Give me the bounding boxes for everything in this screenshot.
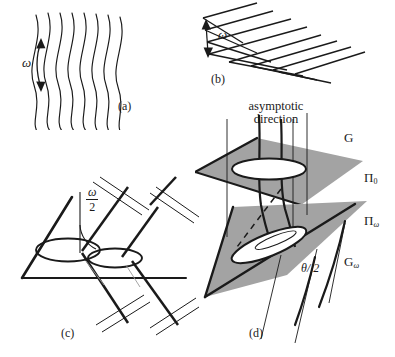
panel-b-omega-label: ω bbox=[218, 28, 227, 42]
panel-d-label: (d) bbox=[249, 327, 263, 340]
asymptotic-direction-label: asymptotic direction bbox=[232, 100, 320, 126]
label-Pi0-base: Π bbox=[364, 170, 373, 185]
figure-root: ω (a) ω (b) bbox=[0, 0, 395, 357]
label-Piw-sub: ω bbox=[373, 220, 379, 229]
panel-b-label: (b) bbox=[211, 73, 225, 86]
panel-c-plane-edge-left bbox=[22, 197, 72, 278]
panel-d-theta-half-label: θ/ 2 bbox=[301, 262, 319, 275]
panel-c-omega-denominator: 2 bbox=[86, 201, 98, 213]
panel-c-omega-over-2: ω 2 bbox=[86, 186, 98, 213]
label-Gw-base: G bbox=[344, 254, 353, 269]
label-Piw-base: Π bbox=[364, 213, 373, 228]
label-G: G bbox=[344, 131, 353, 145]
panel-a-label: (a) bbox=[118, 100, 131, 113]
omega-arrow-a bbox=[37, 42, 41, 88]
label-Pi0: Π0 bbox=[364, 171, 377, 187]
label-Gw: Gω bbox=[344, 255, 359, 271]
label-Gw-sub: ω bbox=[353, 261, 359, 270]
asymptotic-line-2: direction bbox=[254, 112, 298, 126]
panel-a-omega-label: ω bbox=[22, 56, 31, 70]
panel-c-ellipse-left bbox=[36, 239, 100, 262]
panel-c-graphic bbox=[0, 165, 200, 350]
panel-c-label: (c) bbox=[61, 327, 74, 340]
thin-line-3 bbox=[329, 223, 345, 303]
panel-c-omega-numerator: ω bbox=[86, 186, 98, 198]
label-Pi0-sub: 0 bbox=[373, 177, 377, 186]
asymptotic-line-1: asymptotic bbox=[249, 99, 304, 113]
ellipse-upper bbox=[232, 159, 306, 180]
label-Piw: Πω bbox=[364, 214, 379, 230]
